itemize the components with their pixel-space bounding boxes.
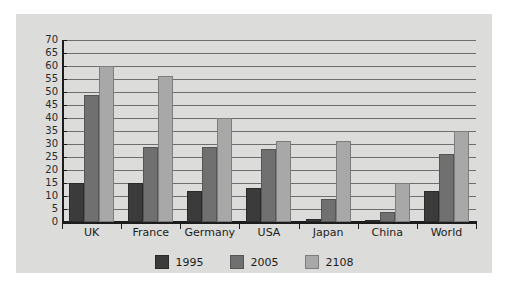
bar-uk-1995	[69, 183, 84, 222]
y-axis-tick-label: 35	[45, 126, 58, 136]
bar-groups	[62, 40, 476, 222]
y-axis-tick-mark	[62, 170, 67, 171]
y-axis-tick-mark	[62, 118, 67, 119]
legend-item-1995[interactable]: 1995	[155, 255, 204, 269]
bar-world-2108	[454, 131, 469, 222]
legend-item-2108[interactable]: 2108	[305, 255, 354, 269]
bar-group-germany	[180, 40, 239, 222]
bar-usa-1995	[246, 188, 261, 222]
y-axis-tick-mark	[62, 196, 67, 197]
bar-world-2005	[439, 154, 454, 222]
bar-china-2005	[380, 212, 395, 222]
bar-china-1995	[365, 220, 380, 222]
y-axis-tick-mark	[62, 209, 67, 210]
y-axis-tick-labels: 7065605550454035302520151050	[16, 40, 58, 222]
bar-group-japan	[299, 40, 358, 222]
x-axis-tick-mark	[299, 224, 300, 229]
y-axis-tick-mark	[62, 222, 67, 223]
y-axis-tick-mark	[62, 92, 67, 93]
y-axis-tick-mark	[62, 105, 67, 106]
y-axis-tick-label: 10	[45, 191, 58, 201]
y-axis-tick-label: 20	[45, 165, 58, 175]
x-axis-label-japan: Japan	[299, 226, 358, 239]
chart-card: 7065605550454035302520151050 UKFranceGer…	[16, 14, 492, 273]
bar-usa-2005	[261, 149, 276, 222]
y-axis-tick-mark	[62, 144, 67, 145]
y-axis-tick-mark	[62, 183, 67, 184]
x-axis-tick-mark	[417, 224, 418, 229]
y-axis-tick-label: 50	[45, 87, 58, 97]
x-axis-label-germany: Germany	[180, 226, 239, 239]
y-axis-tick-mark	[62, 66, 67, 67]
legend-label-2108: 2108	[326, 256, 354, 269]
y-axis-tick-label: 30	[45, 139, 58, 149]
y-axis-tick-mark	[62, 40, 67, 41]
bar-usa-2108	[276, 141, 291, 222]
y-axis-tick-mark	[62, 79, 67, 80]
x-axis-tick-mark	[358, 224, 359, 229]
bar-group-world	[417, 40, 476, 222]
bar-france-2005	[143, 147, 158, 222]
bar-japan-2108	[336, 141, 351, 222]
y-axis-tick-label: 15	[45, 178, 58, 188]
bar-uk-2108	[99, 66, 114, 222]
x-axis-tick-mark	[121, 224, 122, 229]
bar-japan-1995	[306, 219, 321, 222]
x-axis-label-world: World	[417, 226, 476, 239]
bar-china-2108	[395, 183, 410, 222]
x-axis-tick-mark	[62, 224, 63, 229]
x-axis-tick-mark	[180, 224, 181, 229]
y-axis-tick-mark	[62, 157, 67, 158]
bar-group-usa	[239, 40, 298, 222]
bar-group-uk	[62, 40, 121, 222]
x-axis-label-france: France	[121, 226, 180, 239]
y-axis-tick-label: 45	[45, 100, 58, 110]
x-axis-tick-mark	[476, 224, 477, 229]
x-axis-label-usa: USA	[239, 226, 298, 239]
legend-item-2005[interactable]: 2005	[230, 255, 279, 269]
y-axis-tick-label: 25	[45, 152, 58, 162]
y-axis-tick-label: 40	[45, 113, 58, 123]
legend-swatch-2108	[305, 255, 319, 269]
y-axis-tick-label: 55	[45, 74, 58, 84]
y-axis-tick-label: 60	[45, 61, 58, 71]
x-axis-label-uk: UK	[62, 226, 121, 239]
y-axis-tick-mark	[62, 53, 67, 54]
legend-swatch-1995	[155, 255, 169, 269]
bar-germany-2108	[217, 118, 232, 222]
bar-uk-2005	[84, 95, 99, 222]
bar-germany-1995	[187, 191, 202, 222]
y-axis-tick-label: 65	[45, 48, 58, 58]
chart-screenshot: 7065605550454035302520151050 UKFranceGer…	[0, 0, 508, 287]
y-axis-tick-label: 70	[45, 35, 58, 45]
x-axis-label-china: China	[358, 226, 417, 239]
y-axis-tick-label: 0	[52, 217, 58, 227]
y-axis-tick-mark	[62, 131, 67, 132]
bar-world-1995	[424, 191, 439, 222]
bar-group-france	[121, 40, 180, 222]
legend-label-1995: 1995	[176, 256, 204, 269]
x-axis-tick-mark	[239, 224, 240, 229]
chart-legend: 199520052108	[16, 255, 492, 269]
y-axis-tick-label: 5	[52, 204, 58, 214]
bar-group-china	[358, 40, 417, 222]
bar-japan-2005	[321, 199, 336, 222]
bar-france-1995	[128, 183, 143, 222]
legend-label-2005: 2005	[251, 256, 279, 269]
x-axis-category-labels: UKFranceGermanyUSAJapanChinaWorld	[62, 226, 476, 239]
bar-france-2108	[158, 76, 173, 222]
legend-swatch-2005	[230, 255, 244, 269]
bar-germany-2005	[202, 147, 217, 222]
